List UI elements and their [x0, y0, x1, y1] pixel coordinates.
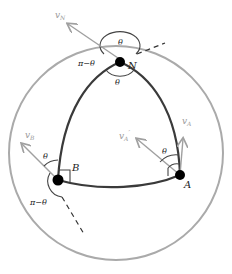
angle-arc-a-inner [168, 164, 179, 168]
spherical-triangle-diagram: N A B θ π−θ θ θ θ π−θ vN vA vA′ vB [0, 0, 232, 274]
label-theta-n-bottom: θ [115, 78, 120, 87]
point-b [53, 175, 64, 186]
label-a: A [183, 179, 191, 190]
label-theta-b: θ [43, 152, 48, 161]
label-vb: vB [25, 130, 35, 141]
dashed-extension-b [62, 197, 84, 234]
side-ba [58, 175, 180, 187]
side-nb [58, 62, 120, 180]
label-n: N [127, 60, 138, 71]
label-theta-a: θ [162, 147, 167, 156]
label-va-prime: vA′ [119, 129, 130, 142]
vector-vb [22, 144, 58, 180]
point-n [115, 57, 125, 67]
vector-va-prime [137, 139, 180, 175]
label-va: vA [182, 116, 192, 127]
label-pi-minus-theta-b: π−θ [29, 198, 47, 207]
label-vn: vN [55, 10, 66, 21]
label-pi-minus-theta-n: π−θ [77, 59, 95, 68]
label-b: B [71, 162, 79, 173]
vector-va [180, 139, 183, 175]
label-theta-n-top: θ [118, 38, 123, 47]
side-na [120, 62, 180, 175]
